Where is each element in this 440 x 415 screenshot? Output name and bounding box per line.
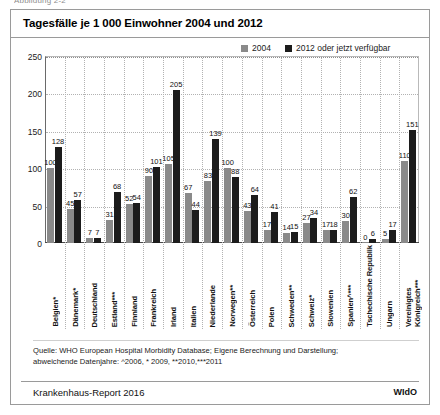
bar-value-label: 54 <box>133 194 141 202</box>
bar-group: 1741 <box>262 56 282 243</box>
x-axis-category-label: Norwegen** <box>228 285 237 327</box>
bar-value-label: 90 <box>145 167 153 175</box>
bar-2004 <box>362 242 369 243</box>
bar-value-label: 5 <box>383 230 387 238</box>
bar-group: 83139 <box>202 56 222 243</box>
page-title: Tagesfälle je 1 000 Einwohner 2004 und 2… <box>23 17 263 29</box>
y-axis-tick-label: 200 <box>28 89 42 99</box>
bar-series-container: 1001284557773168525490101105205674483139… <box>45 56 419 243</box>
bar-group: 3168 <box>104 56 124 243</box>
y-axis-tick-label: 100 <box>28 164 42 174</box>
bar-2004 <box>303 223 310 243</box>
legend-swatch-2012 <box>285 45 292 52</box>
bar-value-label: 57 <box>74 191 82 199</box>
bar-value-label: 88 <box>231 168 239 176</box>
bar-value-label: 17 <box>263 221 271 229</box>
bar-2004 <box>382 239 389 243</box>
bar-2012 <box>173 90 180 243</box>
bar-group: 77 <box>84 56 104 243</box>
bar-group: 110151 <box>399 56 419 243</box>
bar-value-label: 128 <box>52 138 65 146</box>
bar-2004 <box>204 181 211 243</box>
x-axis-category-label: Finnland <box>130 296 139 327</box>
bar-group: 5254 <box>124 56 144 243</box>
bar-2004 <box>283 233 290 243</box>
source-line-1: Quelle: WHO European Hospital Morbidity … <box>33 346 425 357</box>
bar-value-label: 101 <box>150 158 163 166</box>
bar-2012 <box>330 230 337 243</box>
bar-2012 <box>389 230 396 243</box>
bar-2012 <box>212 139 219 243</box>
bar-2004 <box>67 209 74 243</box>
bar-value-label: 7 <box>88 229 92 237</box>
bar-group: 10088 <box>222 56 242 243</box>
source-divider <box>33 340 419 341</box>
title-bar: Tagesfälle je 1 000 Einwohner 2004 und 2… <box>11 10 429 38</box>
bar-group: 1415 <box>281 56 301 243</box>
bar-2012 <box>94 238 101 243</box>
bar-2004 <box>244 211 251 243</box>
x-axis-category-label: Irland <box>169 307 178 327</box>
chart-legend: 2004 2012 oder jetzt verfügbar <box>241 43 390 53</box>
bar-2004 <box>86 238 93 243</box>
bar-value-label: 67 <box>184 184 192 192</box>
bar-value-label: 43 <box>243 202 251 210</box>
source-note: Quelle: WHO European Hospital Morbidity … <box>33 346 425 367</box>
bar-group: 06 <box>360 56 380 243</box>
x-axis-category-label: Ungarn <box>385 301 394 327</box>
bar-group: 517 <box>380 56 400 243</box>
x-axis-category-label: Spanien^*** <box>346 285 355 327</box>
footer-divider <box>21 381 419 382</box>
bar-value-label: 62 <box>349 188 357 196</box>
bar-2012 <box>114 192 121 243</box>
x-axis-category-label: Schweiz* <box>307 295 316 327</box>
x-axis-category-label: Schweden** <box>287 285 296 327</box>
bar-2012 <box>291 232 298 243</box>
bar-value-label: 18 <box>329 221 337 229</box>
bar-value-label: 68 <box>113 183 121 191</box>
bar-group: 6744 <box>183 56 203 243</box>
bar-value-label: 100 <box>221 159 234 167</box>
bar-value-label: 64 <box>251 186 259 194</box>
figure-caption: Abbildung 2-2 <box>14 0 66 5</box>
x-axis-category-label: Belgien* <box>51 297 60 327</box>
legend-item-2012: 2012 oder jetzt verfügbar <box>285 43 391 53</box>
x-axis-category-label: Dänemark* <box>71 288 80 327</box>
x-axis-category-label: Vereinigtes Königreich*** <box>405 245 422 327</box>
x-axis-category-label: Niederlande <box>208 285 217 327</box>
y-axis-tick-label: 0 <box>37 239 42 249</box>
bar-group: 2734 <box>301 56 321 243</box>
bar-group: 1718 <box>321 56 341 243</box>
bar-group: 4557 <box>65 56 85 243</box>
bar-value-label: 45 <box>66 200 74 208</box>
bar-2004 <box>145 176 152 243</box>
bar-2012 <box>55 147 62 243</box>
bar-2004 <box>264 230 271 243</box>
bar-value-label: 83 <box>204 172 212 180</box>
bar-value-label: 31 <box>105 211 113 219</box>
bar-group: 105205 <box>163 56 183 243</box>
legend-swatch-2004 <box>241 45 248 52</box>
x-axis-category-label: Estland*** <box>110 292 119 327</box>
footer-publisher-label: WIdO <box>394 387 418 397</box>
x-axis-category-label: Italien <box>189 306 198 327</box>
x-axis-category-label: Tschechische Republik <box>366 245 375 327</box>
bar-value-label: 17 <box>388 221 396 229</box>
bar-2012 <box>153 167 160 243</box>
bar-2012 <box>409 130 416 243</box>
bar-2012 <box>74 200 81 243</box>
x-axis-category-label: Deutschland <box>90 283 99 327</box>
bar-2004 <box>224 168 231 243</box>
bar-value-label: 205 <box>170 81 183 89</box>
bar-2004 <box>342 221 349 243</box>
legend-label-2012: 2012 oder jetzt verfügbar <box>296 43 391 53</box>
bar-2012 <box>251 195 258 243</box>
x-axis-category-label: Frankreich <box>149 289 158 327</box>
bar-group: 3062 <box>340 56 360 243</box>
bar-value-label: 30 <box>342 212 350 220</box>
bar-value-label: 0 <box>363 234 367 242</box>
bar-2012 <box>271 212 278 243</box>
bar-2012 <box>350 197 357 243</box>
x-axis-category-label: Slowenien <box>326 290 335 327</box>
y-axis-tick-label: 50 <box>33 202 42 212</box>
